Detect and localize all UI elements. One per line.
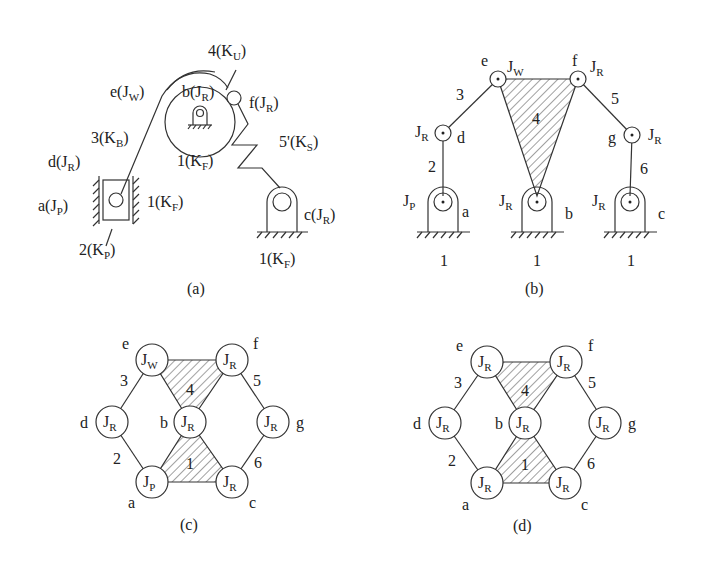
panel-a: 4(KU) e(JW) b(JR) f(JR) 3(KB) 1(KF) 5'(K… [38, 42, 335, 298]
node-f: JR [550, 346, 582, 378]
label-link-4: 4 [532, 110, 540, 127]
label-e: e [481, 52, 488, 69]
label-link-3: 3 [456, 86, 464, 103]
node-g: JR [589, 407, 621, 439]
label-b-jr: b(JR) [182, 83, 214, 103]
pin-a [109, 193, 123, 207]
joint-g [624, 127, 640, 143]
node-c: JR [549, 467, 581, 499]
label-f: f [253, 335, 259, 352]
label-ground-b: 1 [533, 252, 541, 269]
node-a: JR [471, 467, 503, 499]
label-c: c [658, 205, 665, 222]
label-a: a [128, 494, 135, 511]
label-d: d [457, 129, 465, 146]
label-ground-a: 1 [440, 252, 448, 269]
label-link-2: 2 [448, 452, 456, 469]
node-e: JW [136, 344, 168, 376]
label-c: c [249, 494, 256, 511]
caption-b: (b) [525, 280, 544, 298]
label-g: g [628, 415, 636, 433]
label-a: a [462, 203, 469, 220]
joint-f [570, 71, 586, 87]
label-link-6: 6 [587, 455, 595, 472]
link-4-ternary [498, 79, 578, 196]
label-d-jr: d(JR) [48, 153, 80, 173]
pulley-c [257, 187, 308, 238]
label-link-5: 5 [588, 374, 596, 391]
label-b-type: JR [499, 192, 513, 212]
label-link-4: 4 [521, 382, 529, 399]
node-f: JR [216, 344, 248, 376]
label-ku: 4(KU) [208, 42, 246, 62]
label-link-3: 3 [120, 372, 128, 389]
joint-d [435, 125, 451, 141]
label-d-type: JR [415, 123, 429, 143]
label-e: e [456, 337, 463, 354]
label-link-6: 6 [254, 454, 262, 471]
wheel-b-support [188, 106, 212, 129]
label-f: f [572, 52, 578, 69]
label-kf-ground: 1(KF) [259, 250, 295, 270]
label-kb: 3(KB) [91, 129, 129, 149]
label-b: b [565, 205, 573, 222]
label-d: d [80, 414, 88, 431]
spring-5 [232, 104, 280, 188]
label-d: d [413, 415, 421, 432]
label-a: a [462, 496, 469, 513]
label-e: e [122, 335, 129, 352]
label-link-3: 3 [454, 374, 462, 391]
label-link-2: 2 [113, 450, 121, 467]
label-link-1: 1 [521, 456, 529, 473]
node-g: JR [257, 406, 289, 438]
node-a: JP [136, 466, 168, 498]
label-a-type: JP [403, 192, 415, 212]
label-kp: 2(KP) [79, 241, 115, 261]
label-c-jr: c(JR) [304, 206, 335, 226]
label-f: f [588, 337, 594, 354]
panel-c: JW JR JR JR JR JP JR e f d b g a c 3 4 5… [80, 335, 304, 534]
label-f-type: JR [590, 58, 604, 78]
link-3 [443, 79, 498, 133]
node-d: JR [96, 406, 128, 438]
node-b: JR [509, 407, 541, 439]
label-c: c [581, 496, 588, 513]
mechanism-figure: 4(KU) e(JW) b(JR) f(JR) 3(KB) 1(KF) 5'(K… [0, 0, 701, 562]
label-ground-c: 1 [627, 252, 635, 269]
label-a-jp: a(JP) [38, 197, 68, 217]
node-d: JR [429, 407, 461, 439]
label-link-6: 6 [640, 160, 648, 177]
node-c: JR [216, 466, 248, 498]
label-link-2: 2 [428, 158, 436, 175]
panel-d: JR JR JR JR JR JR JR e f d b g a c 3 4 5… [413, 337, 636, 535]
label-e-jw: e(JW) [110, 83, 144, 103]
node-e: JR [471, 346, 503, 378]
label-link-1: 1 [186, 455, 194, 472]
label-kf-wheel: 1(KF) [177, 152, 213, 172]
leader-ku [226, 70, 236, 90]
label-ks: 5'(KS) [279, 133, 318, 153]
label-link-5: 5 [253, 372, 261, 389]
label-b: b [495, 415, 503, 432]
slider-guide-right [133, 176, 139, 224]
label-c-type: JR [592, 192, 606, 212]
label-g: g [296, 414, 304, 432]
label-link-4: 4 [186, 381, 194, 398]
label-e-type: JW [507, 58, 524, 78]
label-b: b [160, 414, 168, 431]
label-kf-slider: 1(KF) [147, 193, 183, 213]
panel-b: e JW f JR 3 4 5 JR d g JR 2 6 JP a JR b … [403, 52, 665, 298]
caption-c: (c) [180, 516, 198, 534]
link-5 [578, 79, 632, 135]
label-g-type: JR [648, 126, 662, 146]
node-b: JR [174, 406, 206, 438]
joint-e [490, 71, 506, 87]
caption-d: (d) [513, 517, 532, 535]
roller-f [227, 91, 241, 105]
caption-a: (a) [187, 280, 205, 298]
label-f-jr: f(JR) [249, 94, 279, 114]
label-g: g [608, 129, 616, 147]
label-link-5: 5 [611, 90, 619, 107]
slider-guide-left [93, 176, 99, 226]
